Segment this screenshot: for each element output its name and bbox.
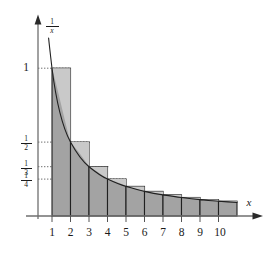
figure-canvas: 1 2 3 4 5 6 7 8 9 10 x <box>0 0 278 253</box>
y-tick-label-one-fourth-denominator: 4 <box>19 181 33 189</box>
bar-10 <box>219 201 238 216</box>
x-tick-label-10: 10 <box>214 226 226 238</box>
y-tick-label-one-fourth: 1 4 <box>19 172 33 189</box>
y-tick-label-one-half: 1 2 <box>19 135 33 152</box>
y-tick-label-1-text: 1 <box>23 61 29 73</box>
y-tick-label-1: 1 <box>20 61 32 73</box>
x-tick-label-9: 9 <box>197 226 203 238</box>
x-axis-ticks <box>52 216 219 222</box>
x-tick-label-4: 4 <box>105 226 111 238</box>
curve-label-one-over-x: 1 x <box>44 18 60 35</box>
x-tick-label-3: 3 <box>86 226 92 238</box>
curve-label-numerator: 1 <box>44 18 60 26</box>
y-tick-label-one-half-numerator: 1 <box>19 135 33 143</box>
harmonic-series-figure: 1 2 3 4 5 6 7 8 9 10 x 1 1 2 1 3 1 4 1 <box>0 0 278 253</box>
curve-label-denominator: x <box>44 27 60 35</box>
x-tick-label-5: 5 <box>123 226 129 238</box>
x-axis-name: x <box>246 196 252 208</box>
bar-9 <box>200 200 219 216</box>
y-tick-label-one-third-numerator: 1 <box>19 160 33 168</box>
x-tick-label-2: 2 <box>68 226 74 238</box>
x-axis-arrow-icon <box>253 212 264 219</box>
y-tick-label-one-fourth-numerator: 1 <box>19 172 33 180</box>
bar-8 <box>182 198 201 217</box>
bar-6 <box>145 191 164 216</box>
bar-7 <box>163 195 182 216</box>
y-tick-label-one-half-denominator: 2 <box>19 144 33 152</box>
x-tick-label-7: 7 <box>160 226 166 238</box>
x-tick-label-8: 8 <box>179 226 185 238</box>
x-tick-label-6: 6 <box>142 226 148 238</box>
x-axis-tick-labels: 1 2 3 4 5 6 7 8 9 10 <box>49 226 226 238</box>
y-axis-arrow-icon <box>35 15 42 25</box>
x-tick-label-1: 1 <box>49 226 55 238</box>
